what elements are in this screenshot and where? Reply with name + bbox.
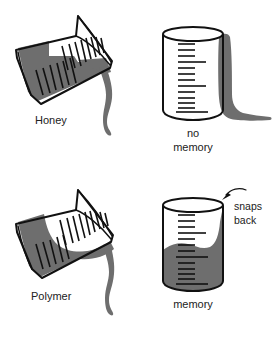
label-no-memory-line1: no [187,127,199,139]
annotation-snaps: snaps [234,200,262,212]
label-polymer: Polymer [31,290,72,302]
label-no-memory-line2: memory [173,141,213,153]
diagram-canvas: Honey no memory [0,0,280,345]
fluid-memory-diagram: Honey no memory [0,0,280,345]
label-memory: memory [173,298,213,310]
annotation-back: back [234,214,257,226]
label-honey: Honey [35,114,67,126]
